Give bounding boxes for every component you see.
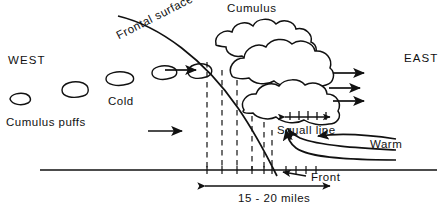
cumulus-lobe-lower bbox=[242, 80, 339, 125]
label-scale-distance: 15 - 20 miles bbox=[238, 192, 310, 204]
cold-air-arrows bbox=[148, 70, 196, 131]
cumulus-puff bbox=[62, 82, 88, 98]
label-cold: Cold bbox=[108, 95, 134, 107]
cumulus-puff bbox=[10, 93, 30, 104]
label-cumulus: Cumulus bbox=[227, 2, 277, 14]
label-front: Front bbox=[311, 171, 340, 183]
cumulus-puff bbox=[106, 72, 134, 86]
label-east: EAST bbox=[404, 52, 438, 64]
cold-front-cross-section-svg bbox=[0, 0, 444, 211]
label-west: WEST bbox=[8, 54, 46, 66]
label-cumulus-puffs: Cumulus puffs bbox=[6, 116, 86, 128]
label-warm: Warm bbox=[370, 138, 402, 150]
diagram-canvas: WEST EAST Cumulus Cold Cumulus puffs Fro… bbox=[0, 0, 444, 211]
cumulus-puff bbox=[152, 66, 177, 80]
cumulus-cloud-mass bbox=[216, 19, 340, 124]
label-squall-line: Squall line bbox=[277, 124, 336, 136]
